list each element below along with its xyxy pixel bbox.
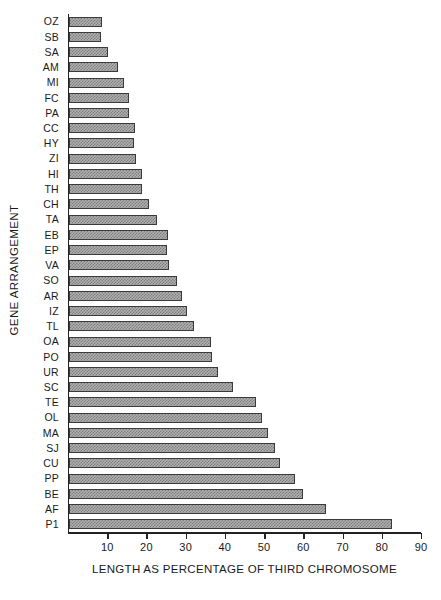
bar-row xyxy=(69,136,422,151)
bar xyxy=(69,199,149,209)
bar xyxy=(69,260,169,270)
bar xyxy=(69,123,135,133)
bar-row xyxy=(69,456,422,471)
bar xyxy=(69,138,134,148)
bar xyxy=(69,291,182,301)
bar-row xyxy=(69,425,422,440)
bar xyxy=(69,215,157,225)
category-label: PA xyxy=(26,105,64,120)
bar-row xyxy=(69,90,422,105)
bar xyxy=(69,230,168,240)
bar xyxy=(69,306,187,316)
x-axis-tick xyxy=(303,533,304,539)
category-label: OA xyxy=(26,334,64,349)
bar-row xyxy=(69,410,422,425)
bar-row xyxy=(69,121,422,136)
category-label: MI xyxy=(26,75,64,90)
x-axis-tick-label: 10 xyxy=(101,541,114,553)
bar-row xyxy=(69,151,422,166)
category-label: SO xyxy=(26,273,64,288)
bar xyxy=(69,519,392,529)
category-label: HI xyxy=(26,166,64,181)
bar-row xyxy=(69,29,422,44)
x-axis-tick-label: 90 xyxy=(415,541,428,553)
bar xyxy=(69,169,142,179)
bar xyxy=(69,474,295,484)
bar xyxy=(69,443,275,453)
bar-row xyxy=(69,380,422,395)
bar xyxy=(69,47,108,57)
bar-row xyxy=(69,212,422,227)
category-label: TL xyxy=(26,319,64,334)
bar xyxy=(69,489,303,499)
bar xyxy=(69,321,194,331)
category-label: PP xyxy=(26,471,64,486)
bar-row xyxy=(69,243,422,258)
category-label: AF xyxy=(26,502,64,517)
x-axis-tick xyxy=(146,533,147,539)
bar xyxy=(69,93,129,103)
bar-row xyxy=(69,258,422,273)
bar-row xyxy=(69,303,422,318)
category-label: SC xyxy=(26,380,64,395)
category-label: P1 xyxy=(26,517,64,532)
bar-row xyxy=(69,517,422,532)
bar-row xyxy=(69,441,422,456)
x-axis-tick xyxy=(382,533,383,539)
category-label: VA xyxy=(26,258,64,273)
bar xyxy=(69,245,167,255)
category-label: TA xyxy=(26,212,64,227)
bar xyxy=(69,78,124,88)
bar-row xyxy=(69,14,422,29)
category-label: CH xyxy=(26,197,64,212)
bar-row xyxy=(69,227,422,242)
x-axis-tick-labels: 102030405060708090 xyxy=(68,541,421,557)
category-label: AM xyxy=(26,60,64,75)
x-axis-tick xyxy=(107,533,108,539)
category-label: BE xyxy=(26,486,64,501)
bar-chart-figure: GENE ARRANGEMENT OZSBSAAMMIFCPACCHYZIHIT… xyxy=(0,0,441,600)
category-label: SJ xyxy=(26,441,64,456)
y-axis-title-container: GENE ARRANGEMENT xyxy=(0,0,26,540)
x-axis-tick xyxy=(421,533,422,539)
bar xyxy=(69,17,102,27)
bar-row xyxy=(69,319,422,334)
bar-row xyxy=(69,349,422,364)
category-label: OZ xyxy=(26,14,64,29)
x-axis-ticks xyxy=(68,533,421,541)
bar xyxy=(69,276,177,286)
y-axis-category-labels: OZSBSAAMMIFCPACCHYZIHITHCHTAEBEPVASOARIZ… xyxy=(26,14,64,532)
bars-container xyxy=(69,14,422,532)
x-axis-tick-label: 30 xyxy=(179,541,192,553)
category-label: TE xyxy=(26,395,64,410)
category-label: EB xyxy=(26,227,64,242)
x-axis-tick-label: 70 xyxy=(336,541,349,553)
bar-row xyxy=(69,197,422,212)
x-axis-tick-label: 40 xyxy=(219,541,232,553)
bar-row xyxy=(69,334,422,349)
bar-row xyxy=(69,288,422,303)
bar xyxy=(69,337,211,347)
bar xyxy=(69,397,256,407)
bar-row xyxy=(69,105,422,120)
category-label: IZ xyxy=(26,303,64,318)
bar xyxy=(69,382,233,392)
x-axis-tick-label: 80 xyxy=(375,541,388,553)
category-label: HY xyxy=(26,136,64,151)
category-label: SA xyxy=(26,44,64,59)
bar xyxy=(69,367,218,377)
x-axis-tick-label: 60 xyxy=(297,541,310,553)
bar xyxy=(69,108,129,118)
plot-area xyxy=(68,14,422,532)
bar xyxy=(69,154,136,164)
category-label: UR xyxy=(26,364,64,379)
bar xyxy=(69,504,326,514)
bar-row xyxy=(69,502,422,517)
bar-row xyxy=(69,273,422,288)
bar xyxy=(69,413,262,423)
bar xyxy=(69,458,280,468)
x-axis-tick-label: 50 xyxy=(258,541,271,553)
bar-row xyxy=(69,60,422,75)
bar xyxy=(69,352,212,362)
category-label: OL xyxy=(26,410,64,425)
